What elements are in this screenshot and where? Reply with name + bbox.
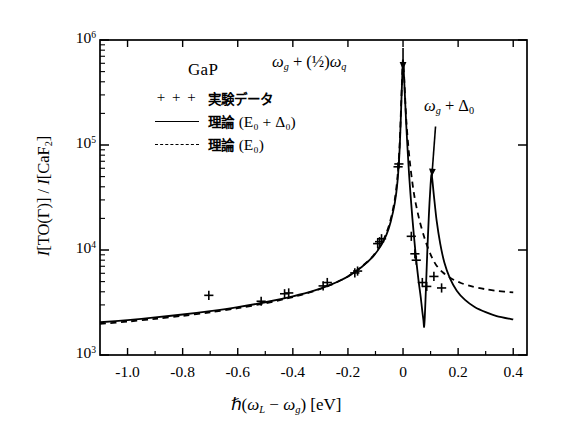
- y-tick-label: 106: [38, 29, 96, 47]
- x-axis-title-minus: −: [265, 395, 283, 414]
- legend-label-theory-1-math: (E₀ + Δ₀): [239, 113, 296, 130]
- annot2-plus: + Δ: [441, 96, 469, 115]
- x-tick-label: -0.8: [153, 363, 213, 381]
- x-axis-title-omega-g: ω: [283, 395, 295, 414]
- annot1-sub2: q: [341, 61, 346, 72]
- solid-line-icon: [146, 113, 208, 128]
- x-tick-label: 0.2: [428, 363, 488, 381]
- legend-row-theory-e0-delta0: 理論 (E₀ + Δ₀): [146, 109, 296, 132]
- annotation-omega-g-delta-0: ωg + Δ0: [424, 96, 474, 116]
- dashed-line-icon: [146, 136, 208, 151]
- annot1-omega2: ω: [330, 52, 342, 71]
- legend-label-theory-2: 理論 (E₀): [208, 134, 264, 154]
- y-tick-label: 104: [38, 239, 96, 257]
- y-tick-label: 105: [38, 134, 96, 152]
- annot1-omega: ω: [272, 52, 284, 71]
- y-tick-label-text: 104: [76, 239, 96, 257]
- y-axis-title-i2: I: [34, 179, 53, 185]
- y-tick-label-text: 105: [76, 134, 96, 152]
- legend-label-theory-2-math: (E₀): [239, 136, 264, 153]
- y-tick-label: 103: [38, 344, 96, 362]
- annot2-sub2: 0: [469, 105, 474, 116]
- chart-legend: GaP + + + 実験データ 理論 (E₀ + Δ₀) 理論 (E₀): [146, 60, 296, 155]
- y-tick-label-text: 103: [76, 344, 96, 362]
- x-tick-label: -0.2: [318, 363, 378, 381]
- legend-row-theory-e0: 理論 (E₀): [146, 132, 296, 155]
- legend-key-plusses: + + +: [157, 89, 197, 105]
- y-axis-title: I[TO(Γ)] / I[CaF2]: [34, 66, 54, 326]
- annotation-omega-g-half-omega-q: ωg + (½)ωq: [272, 52, 346, 72]
- x-tick-label: -0.6: [208, 363, 268, 381]
- annot2-omega: ω: [424, 96, 436, 115]
- x-axis-title-omega-l: ω: [247, 395, 259, 414]
- x-axis-title: ℏ(ωL − ωg) [eV]: [0, 394, 572, 415]
- annot1-plus: + (½): [289, 52, 330, 71]
- y-tick-label-text: 106: [76, 29, 96, 47]
- x-axis-title-hbar: ℏ(: [231, 395, 248, 414]
- x-tick-label: -0.4: [263, 363, 323, 381]
- legend-row-experimental: + + + 実験データ: [146, 86, 296, 109]
- x-tick-label: -1.0: [98, 363, 158, 381]
- legend-label-theory-2-text: 理論: [208, 137, 234, 153]
- legend-label-theory-1: 理論 (E₀ + Δ₀): [208, 111, 296, 131]
- x-axis-title-close: ) [eV]: [300, 395, 341, 414]
- plus-markers-icon: + + +: [146, 90, 208, 105]
- legend-label-experimental: 実験データ: [208, 88, 273, 108]
- figure-root: I[TO(Γ)] / I[CaF2] ℏ(ωL − ωg) [eV] 10610…: [0, 0, 572, 445]
- x-tick-label: 0: [373, 363, 433, 381]
- legend-label-theory-1-text: 理論: [208, 114, 234, 130]
- x-tick-label: 0.4: [483, 363, 543, 381]
